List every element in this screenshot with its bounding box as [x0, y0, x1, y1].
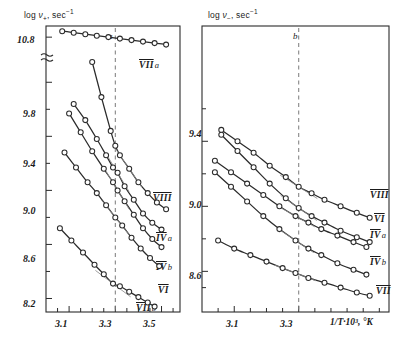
data-point-marker — [145, 191, 150, 196]
data-point-marker — [306, 246, 311, 251]
data-point-marker — [338, 285, 343, 290]
data-point-marker — [367, 240, 372, 245]
data-point-marker — [267, 163, 272, 168]
data-point-marker — [235, 149, 240, 154]
data-point-marker — [280, 266, 285, 271]
data-point-marker — [136, 295, 141, 300]
data-point-marker — [83, 118, 88, 123]
data-point-marker — [154, 200, 159, 205]
axis-break-mark-lower — [41, 59, 53, 62]
data-point-marker — [152, 41, 157, 46]
series-iv-a — [71, 101, 164, 232]
data-point-marker — [283, 175, 288, 180]
data-point-marker — [157, 264, 162, 269]
data-point-marker — [245, 199, 250, 204]
data-point-marker — [367, 215, 372, 220]
data-point-marker — [306, 275, 311, 280]
data-point-marker — [81, 250, 86, 255]
data-point-marker — [152, 304, 157, 309]
data-point-marker — [212, 170, 217, 175]
data-point-marker — [351, 267, 356, 272]
data-point-marker — [164, 207, 169, 212]
data-point-marker — [164, 42, 169, 47]
data-point-marker — [131, 197, 136, 202]
data-point-marker — [296, 205, 301, 210]
data-point-marker — [296, 184, 301, 189]
data-point-marker — [216, 238, 221, 243]
series-vi — [219, 132, 372, 244]
data-point-marker — [267, 181, 272, 186]
data-point-marker — [277, 204, 282, 209]
data-point-marker — [92, 262, 97, 267]
data-point-marker — [322, 280, 327, 285]
data-point-marker — [111, 165, 116, 170]
data-point-marker — [232, 246, 237, 251]
data-point-marker — [322, 220, 327, 225]
data-point-marker — [115, 170, 120, 175]
data-point-marker — [319, 227, 324, 232]
series-iv-b — [212, 170, 369, 277]
data-point-marker — [150, 220, 155, 225]
data-point-marker — [277, 227, 282, 232]
data-point-marker — [106, 35, 111, 40]
data-point-marker — [131, 212, 136, 217]
data-point-marker — [71, 101, 76, 106]
data-point-marker — [309, 214, 314, 219]
data-point-marker — [127, 166, 132, 171]
series-line — [221, 135, 369, 242]
series-line — [74, 104, 162, 230]
data-point-marker — [138, 246, 143, 251]
series-vii-a — [60, 29, 169, 47]
panel-b-plot — [202, 26, 389, 312]
series-line — [62, 31, 166, 44]
data-point-marker — [113, 215, 118, 220]
data-point-marker — [148, 255, 153, 260]
data-point-marker — [111, 281, 116, 286]
data-point-marker — [94, 137, 99, 142]
data-point-marker — [141, 211, 146, 216]
series-line — [218, 241, 370, 296]
data-point-marker — [319, 253, 324, 258]
data-point-marker — [122, 199, 127, 204]
data-point-marker — [127, 289, 132, 294]
data-point-marker — [122, 184, 127, 189]
data-point-marker — [120, 223, 125, 228]
data-point-marker — [248, 253, 253, 258]
series-line — [215, 161, 367, 247]
data-point-marker — [351, 240, 356, 245]
plot-canvas — [0, 0, 417, 352]
data-point-marker — [283, 196, 288, 201]
data-point-marker — [99, 95, 104, 100]
data-point-marker — [229, 170, 234, 175]
series-viii — [90, 60, 169, 212]
data-point-marker — [293, 214, 298, 219]
data-point-marker — [60, 29, 65, 34]
data-point-marker — [212, 158, 217, 163]
data-point-marker — [136, 180, 141, 185]
series-line — [92, 62, 166, 209]
data-point-marker — [364, 245, 369, 250]
data-point-marker — [94, 191, 99, 196]
data-point-marker — [108, 128, 113, 133]
series-vii-b — [57, 226, 157, 309]
data-point-marker — [101, 166, 106, 171]
data-point-marker — [57, 226, 62, 231]
data-point-marker — [94, 33, 99, 38]
data-point-marker — [335, 261, 340, 266]
data-point-marker — [117, 36, 122, 41]
figure-root: log ν+, sec−1 a 10.8 9.8 9.4 9.0 8.6 8.2… — [0, 0, 417, 352]
series-iv-a — [212, 158, 369, 249]
data-point-marker — [101, 272, 106, 277]
data-point-marker — [115, 188, 120, 193]
data-point-marker — [104, 203, 109, 208]
data-point-marker — [74, 165, 79, 170]
series-line — [221, 130, 369, 218]
data-point-marker — [113, 143, 118, 148]
data-point-marker — [111, 180, 116, 185]
data-point-marker — [159, 227, 164, 232]
panel-b-frame — [202, 26, 389, 312]
data-point-marker — [364, 272, 369, 277]
data-point-marker — [159, 245, 164, 250]
data-point-marker — [90, 149, 95, 154]
data-point-marker — [293, 238, 298, 243]
